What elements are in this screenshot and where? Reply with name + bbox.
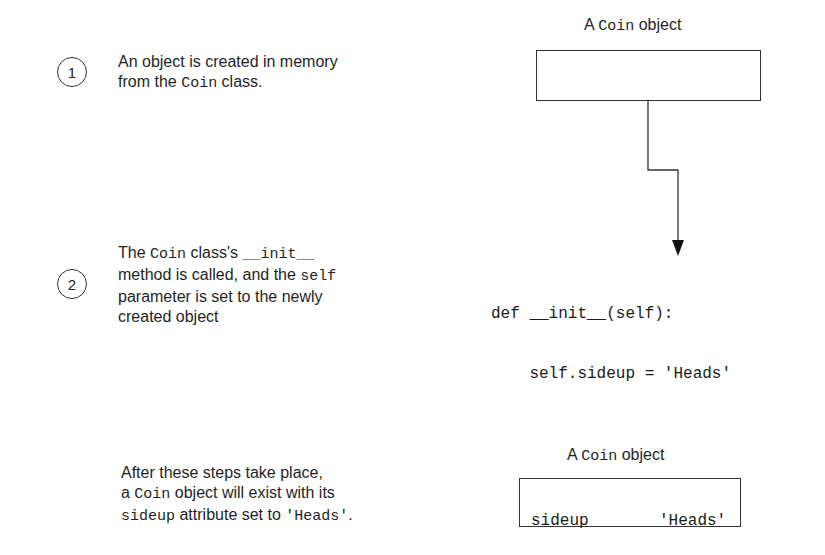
text: class's: [186, 244, 242, 261]
text: method is called, and the: [118, 266, 300, 283]
text: object will exist with its: [170, 484, 335, 501]
init-method-code-block: def __init__(self): self.sideup = 'Heads…: [491, 264, 731, 404]
code-line-2: self.sideup = 'Heads': [491, 364, 731, 384]
step-2-marker: 2: [57, 269, 87, 299]
attribute-code: sideup: [121, 508, 175, 525]
text: a: [121, 484, 134, 501]
label-prefix: A: [567, 446, 581, 463]
bottom-object-label: A Coin object: [567, 446, 664, 465]
heads-value: 'Heads': [659, 511, 726, 531]
step-2-line-2: method is called, and the self: [118, 265, 418, 287]
class-name-code: Coin: [150, 246, 186, 263]
code-line-1: def __init__(self):: [491, 304, 731, 324]
class-name-code: Coin: [581, 448, 617, 465]
summary-line-1: After these steps take place,: [121, 463, 461, 483]
value-code: 'Heads': [285, 508, 348, 525]
step-2-line-4: created object: [118, 307, 418, 327]
step-2-description: The Coin class's __init__ method is call…: [118, 243, 418, 327]
sideup-attribute: sideup: [531, 511, 589, 531]
text: The: [118, 244, 150, 261]
label-suffix: object: [617, 446, 664, 463]
text: .: [348, 506, 352, 523]
summary-description: After these steps take place, a Coin obj…: [121, 463, 461, 527]
class-name-code: Coin: [134, 486, 170, 503]
self-code: self: [300, 268, 336, 285]
summary-line-3: sideup attribute set to 'Heads'.: [121, 505, 461, 527]
init-method-code: __init__: [242, 246, 314, 263]
step-2-line-1: The Coin class's __init__: [118, 243, 418, 265]
summary-line-2: a Coin object will exist with its: [121, 483, 461, 505]
step-2-line-3: parameter is set to the newly: [118, 287, 418, 307]
step-2-number: 2: [68, 276, 76, 293]
text: attribute set to: [175, 506, 285, 523]
